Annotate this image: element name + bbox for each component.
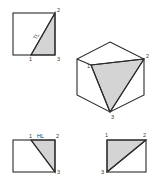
point-label-2: 2 (146, 53, 149, 59)
point-label-2: 2 (143, 132, 146, 138)
point-label-3: 3 (57, 56, 60, 62)
edge-label-tl: TL (32, 32, 40, 41)
diagram-canvas: 2 1 3 TL 1 2 3 1 HL 2 3 1 2 3 (0, 0, 157, 179)
edge-label-hl: HL (37, 133, 44, 139)
point-label-3: 3 (101, 169, 104, 175)
point-label-2: 2 (56, 133, 59, 139)
point-label-1: 1 (29, 56, 32, 62)
isometric-view: 1 2 3 (77, 42, 149, 120)
point-label-1: 1 (29, 133, 32, 139)
point-label-3: 3 (111, 114, 114, 120)
bottom-right-view: 1 2 3 (101, 132, 146, 175)
point-label-3: 3 (57, 169, 60, 175)
point-label-2: 2 (57, 7, 60, 13)
top-left-view: 2 1 3 TL (13, 7, 60, 62)
point-label-1: 1 (87, 63, 90, 69)
point-label-1: 1 (105, 132, 108, 138)
bottom-left-view: 1 HL 2 3 (13, 133, 60, 175)
